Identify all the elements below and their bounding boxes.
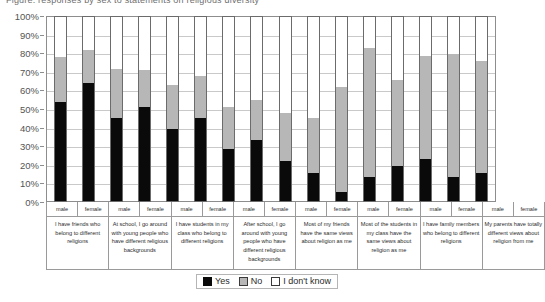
legend-label-dont-know: I don't know — [283, 276, 331, 286]
y-axis-tick-label: 70% — [20, 66, 39, 77]
bar-segment-no — [223, 107, 234, 149]
bar-group — [327, 16, 383, 202]
legend-item-no: No — [239, 276, 263, 286]
bar-segment-dont-know — [195, 17, 206, 76]
legend-label-yes: Yes — [215, 276, 230, 286]
bar-segment-no — [476, 61, 487, 173]
legend-item-dont-know: I don't know — [271, 276, 331, 286]
question-label-row: I have friends who belong to different r… — [47, 217, 545, 270]
bars-layer — [46, 16, 496, 202]
bar-segment-dont-know — [223, 17, 234, 107]
bar-segment-no — [83, 50, 94, 83]
y-axis-tick-label: 50% — [20, 104, 39, 115]
bar-segment-dont-know — [55, 17, 66, 57]
stacked-bar[interactable] — [307, 16, 320, 202]
bar-segment-dont-know — [336, 17, 347, 87]
bar-segment-no — [364, 48, 375, 177]
bar-segment-yes — [139, 107, 150, 201]
bar-group — [271, 16, 327, 202]
stacked-bar[interactable] — [250, 16, 263, 202]
bar-segment-yes — [55, 102, 66, 201]
y-axis-tick-mark — [40, 183, 44, 184]
bar-segment-dont-know — [308, 17, 319, 118]
question-label-cell: I have friends who belong to different r… — [47, 217, 109, 270]
legend-label-no: No — [251, 276, 263, 286]
bar-segment-yes — [111, 118, 122, 201]
sex-label-cell: female — [513, 202, 544, 217]
bar-segment-dont-know — [167, 17, 178, 85]
y-axis-tick-mark — [40, 146, 44, 147]
bar-segment-dont-know — [420, 17, 431, 56]
y-axis-tick-label: 100% — [15, 11, 39, 22]
y-axis-tick-label: 80% — [20, 48, 39, 59]
y-axis-tick-mark — [40, 72, 44, 73]
stacked-bar[interactable] — [419, 16, 432, 202]
y-axis-tick-label: 10% — [20, 178, 39, 189]
bar-segment-dont-know — [280, 17, 291, 113]
bar-group — [215, 16, 271, 202]
stacked-bar[interactable] — [363, 16, 376, 202]
stacked-bar[interactable] — [110, 16, 123, 202]
stacked-bar[interactable] — [391, 16, 404, 202]
stacked-bar[interactable] — [447, 16, 460, 202]
legend-swatch-yes-icon — [203, 277, 212, 286]
bar-segment-dont-know — [139, 17, 150, 70]
bar-group — [102, 16, 158, 202]
bar-segment-yes — [392, 166, 403, 201]
bar-segment-no — [251, 100, 262, 140]
bar-segment-dont-know — [251, 17, 262, 100]
sex-label-cell: female — [78, 202, 109, 217]
bar-segment-dont-know — [364, 17, 375, 48]
stacked-bar[interactable] — [82, 16, 95, 202]
bar-segment-dont-know — [476, 17, 487, 61]
stacked-bar[interactable] — [138, 16, 151, 202]
stacked-bar[interactable] — [54, 16, 67, 202]
plot-area — [46, 16, 496, 202]
bar-segment-yes — [336, 192, 347, 201]
y-axis-tick-label: 40% — [20, 122, 39, 133]
stacked-bar[interactable] — [194, 16, 207, 202]
stacked-bar[interactable] — [475, 16, 488, 202]
bar-segment-yes — [167, 129, 178, 201]
question-label-cell: Most of my friends have the same views a… — [296, 217, 358, 270]
bar-segment-yes — [83, 83, 94, 201]
y-axis-tick-label: 20% — [20, 159, 39, 170]
bar-segment-dont-know — [83, 17, 94, 50]
question-label-cell: I have students in my class who belong t… — [171, 217, 233, 270]
stacked-bar[interactable] — [279, 16, 292, 202]
stacked-bar[interactable] — [335, 16, 348, 202]
sex-label-cell: male — [47, 202, 78, 217]
y-axis-tick-mark — [40, 53, 44, 54]
legend-swatch-dont-know-icon — [271, 277, 280, 286]
bar-segment-yes — [476, 173, 487, 201]
bar-segment-yes — [223, 149, 234, 201]
sex-label-cell: female — [202, 202, 233, 217]
figure-caption: Figure: responses by sex to statements o… — [0, 0, 504, 11]
y-axis-tick-label: 60% — [20, 85, 39, 96]
y-axis: 100%90%80%70%60%50%40%30%20%10%0% — [0, 16, 44, 202]
stacked-bar[interactable] — [166, 16, 179, 202]
bar-segment-dont-know — [392, 17, 403, 80]
bar-segment-no — [336, 87, 347, 192]
sex-label-cell: male — [358, 202, 389, 217]
bar-segment-yes — [280, 161, 291, 201]
bar-segment-yes — [251, 140, 262, 201]
sex-label-cell: male — [482, 202, 513, 217]
y-axis-tick-mark — [40, 109, 44, 110]
sex-label-cell: male — [296, 202, 327, 217]
chart-legend: Yes No I don't know — [196, 274, 338, 289]
category-label-table: malefemalemalefemalemalefemalemalefemale… — [46, 202, 545, 270]
y-axis-tick-mark — [40, 90, 44, 91]
bar-group — [440, 16, 496, 202]
y-axis-tick-label: 30% — [20, 141, 39, 152]
sex-label-cell: female — [140, 202, 171, 217]
sex-label-cell: male — [109, 202, 140, 217]
stacked-bar[interactable] — [222, 16, 235, 202]
sex-label-cell: female — [389, 202, 420, 217]
y-axis-tick-mark — [40, 128, 44, 129]
legend-swatch-no-icon — [239, 277, 248, 286]
bar-group — [159, 16, 215, 202]
sex-label-cell: male — [171, 202, 202, 217]
bar-segment-no — [280, 113, 291, 161]
bar-segment-no — [420, 56, 431, 159]
